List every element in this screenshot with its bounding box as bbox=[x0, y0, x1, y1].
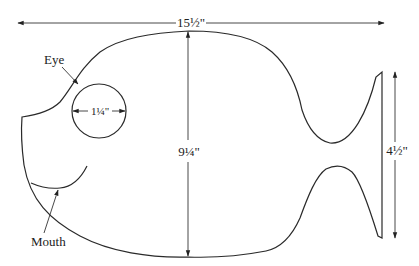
eye-dimension-label: 1¼" bbox=[91, 105, 109, 117]
mouth-label: Mouth bbox=[31, 234, 66, 249]
fish-pattern-diagram: 15½" 9¼" 1¼" 4½" Eye Mouth bbox=[0, 0, 419, 266]
eye-leader-line bbox=[62, 67, 78, 84]
height-dimension-label: 9¼" bbox=[178, 144, 200, 159]
length-dimension-label: 15½" bbox=[177, 15, 205, 30]
mouth-curve bbox=[31, 166, 87, 188]
tail-dimension-label: 4½" bbox=[386, 143, 408, 158]
fish-body-outline bbox=[22, 31, 382, 257]
eye-label: Eye bbox=[44, 52, 64, 67]
